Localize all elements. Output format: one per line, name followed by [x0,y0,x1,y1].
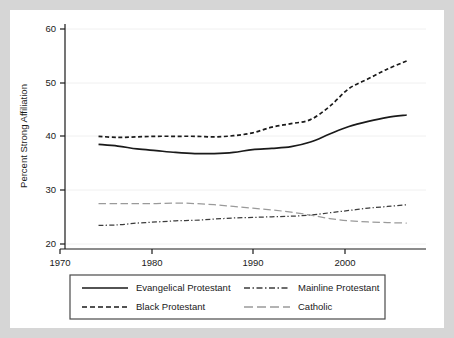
x-tick-label-2000: 2000 [334,257,355,268]
y-tick-label-40: 40 [45,130,56,141]
chart-figure: 60 50 40 30 20 Percent Strong Affiliatio… [10,10,444,328]
legend-label-black-protestant: Black Protestant [136,301,206,312]
x-tick-label-1990: 1990 [242,257,263,268]
y-tick-label-50: 50 [45,77,56,88]
x-tick-label-1980: 1980 [141,257,162,268]
y-tick-label-20: 20 [45,238,56,249]
legend-label-evangelical-protestant: Evangelical Protestant [136,282,231,293]
legend-label-catholic: Catholic [298,301,333,312]
y-tick-label-30: 30 [45,184,56,195]
x-tick-label-1970: 1970 [49,257,70,268]
y-axis-title: Percent Strong Affiliation [18,84,29,188]
chart-legend: Evangelical Protestant Mainline Protesta… [70,275,385,319]
y-tick-label-60: 60 [45,23,56,34]
legend-label-mainline-protestant: Mainline Protestant [298,282,380,293]
affiliation-line-chart: 60 50 40 30 20 Percent Strong Affiliatio… [10,10,444,328]
